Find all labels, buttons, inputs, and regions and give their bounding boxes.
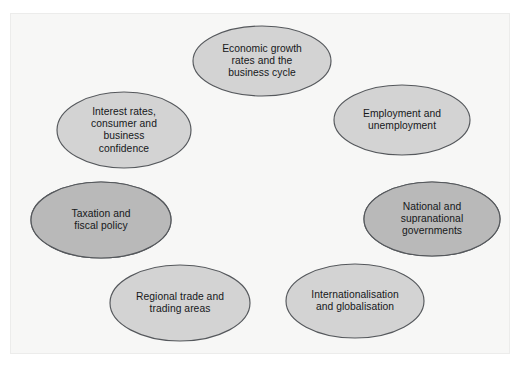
ellipse-highlight-taxation[interactable] (31, 182, 171, 258)
ring-diagram-svg (10, 13, 510, 354)
ellipse-highlight-governments[interactable] (364, 182, 500, 256)
diagram-canvas: Economic growth rates and the business c… (0, 0, 520, 367)
ellipse-highlights (31, 182, 500, 258)
